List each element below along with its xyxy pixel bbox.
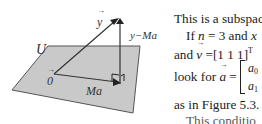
matrix-a: a0 a1 (240, 60, 262, 94)
text-line-5: as in Figure 5.3. (174, 98, 259, 111)
y-label: y (97, 16, 102, 28)
line4-pre: look for (174, 69, 219, 84)
plane-label: U (36, 43, 46, 57)
projection-figure: U 0 y y−Ma Ma (0, 0, 175, 124)
origin-label: 0 (47, 75, 53, 87)
y-vector-label: y (97, 15, 102, 29)
text-line-6: This conditio (186, 114, 256, 124)
text-line-1: This is a subspac (174, 12, 262, 25)
text-line-4: look for a = a0 a1 (174, 60, 262, 94)
ma-label: Ma (86, 85, 102, 97)
line4-a: a (219, 69, 226, 84)
plane-u (12, 46, 140, 113)
projection-diagram-svg (0, 0, 175, 124)
residual-label: y−Ma (130, 30, 157, 41)
line2-x: x (251, 28, 257, 43)
origin-vector-label: 0 (47, 74, 53, 88)
matrix-a1: a1 (248, 80, 258, 94)
line2-mid: = 3 and (205, 28, 251, 43)
matrix-a0: a0 (248, 62, 258, 76)
body-text: This is a subspac If n = 3 and x and v =… (174, 0, 262, 124)
line3-sup: T (248, 46, 253, 55)
line4-eq: = (226, 69, 237, 84)
